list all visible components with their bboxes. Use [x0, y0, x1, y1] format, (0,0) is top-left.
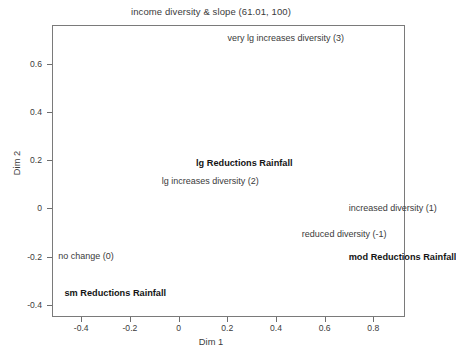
- data-point-label: sm Reductions Rainfall: [64, 289, 166, 298]
- y-tick-label: 0: [12, 203, 42, 213]
- data-point-label: lg Reductions Rainfall: [196, 159, 292, 168]
- x-tick-mark: [81, 317, 82, 322]
- y-tick-mark: [47, 160, 52, 161]
- plot-area: [52, 25, 405, 317]
- x-axis-title: Dim 1: [0, 337, 422, 347]
- y-tick-label: -0.4: [12, 300, 42, 310]
- data-point-label: reduced diversity (-1): [302, 229, 387, 238]
- x-tick-mark: [276, 317, 277, 322]
- x-tick-mark: [227, 317, 228, 322]
- y-tick-label: 0.4: [12, 107, 42, 117]
- x-tick-label: 0.2: [221, 323, 233, 333]
- x-tick-mark: [373, 317, 374, 322]
- x-tick-mark: [325, 317, 326, 322]
- chart-title: income diversity & slope (61.01, 100): [0, 6, 422, 17]
- data-point-label: lg increases diversity (2): [162, 176, 259, 185]
- x-tick-label: 0.6: [319, 323, 331, 333]
- x-tick-mark: [130, 317, 131, 322]
- data-point-label: very lg increases diversity (3): [227, 34, 344, 43]
- data-point-label: mod Reductions Rainfall: [349, 253, 456, 262]
- x-tick-label: 0: [176, 323, 181, 333]
- y-tick-mark: [47, 64, 52, 65]
- y-tick-mark: [47, 305, 52, 306]
- x-tick-label: -0.2: [122, 323, 137, 333]
- y-tick-mark: [47, 112, 52, 113]
- y-tick-mark: [47, 257, 52, 258]
- x-tick-label: 0.4: [270, 323, 282, 333]
- x-tick-label: 0.8: [367, 323, 379, 333]
- data-point-label: increased diversity (1): [349, 204, 437, 213]
- data-point-label: no change (0): [58, 251, 114, 260]
- x-tick-mark: [179, 317, 180, 322]
- y-tick-label: 0.6: [12, 59, 42, 69]
- y-tick-mark: [47, 208, 52, 209]
- y-axis-title: Dim 2: [12, 133, 22, 193]
- y-tick-label: -0.2: [12, 252, 42, 262]
- x-tick-label: -0.4: [74, 323, 89, 333]
